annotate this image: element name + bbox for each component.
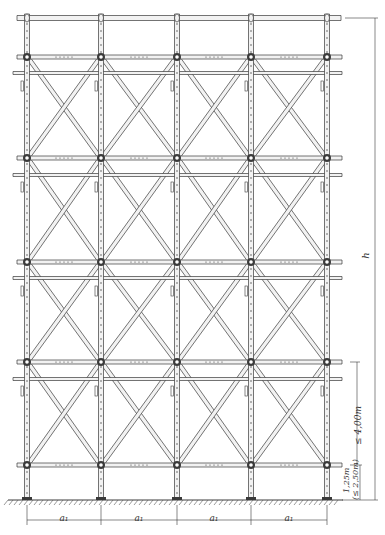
rosette-node — [247, 461, 255, 469]
bay-width-label-3: a₁ — [204, 513, 224, 523]
rosette-node — [23, 258, 31, 266]
rosette-node — [97, 154, 105, 162]
rosette-node — [173, 154, 181, 162]
base-lift-label: 1,25m — [342, 468, 351, 493]
bay-width-label-2: a₁ — [129, 513, 149, 523]
rosette-node — [23, 358, 31, 366]
rosette-node — [23, 53, 31, 61]
rosette-node — [247, 258, 255, 266]
rosette-node — [173, 53, 181, 61]
rosette-node — [173, 461, 181, 469]
rosette-node — [247, 53, 255, 61]
rosette-node — [97, 461, 105, 469]
rosette-node — [97, 358, 105, 366]
standards — [21, 14, 332, 500]
height-label: h — [360, 252, 371, 258]
rosette-node — [323, 258, 331, 266]
rosette-node — [247, 358, 255, 366]
rosette-node — [323, 53, 331, 61]
scaffold-drawing — [0, 0, 385, 535]
rosette-node — [323, 461, 331, 469]
rosette-node — [173, 358, 181, 366]
rosette-node — [323, 154, 331, 162]
rosette-node — [173, 258, 181, 266]
rosette-node — [23, 154, 31, 162]
rosette-node — [323, 358, 331, 366]
lift-height-label: ≤ 4,00m — [353, 406, 363, 445]
base-lift-alt-label: (≤ 2,50m) — [351, 459, 360, 500]
rosette-node — [97, 53, 105, 61]
bay-width-label-4: a₁ — [279, 513, 299, 523]
rosette-node — [23, 461, 31, 469]
ground-line — [4, 500, 343, 505]
rosette-node — [97, 258, 105, 266]
rosette-node — [247, 154, 255, 162]
bay-width-label-1: a₁ — [54, 513, 74, 523]
